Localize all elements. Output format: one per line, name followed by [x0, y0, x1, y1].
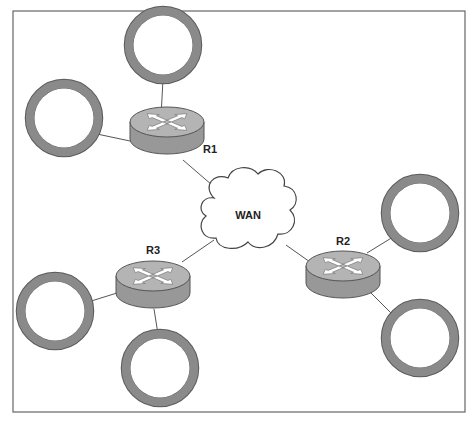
router-label: R2 [336, 235, 350, 247]
router-label: R1 [203, 143, 217, 155]
host-ring-r3-bottom [126, 334, 194, 402]
host-ring-r3-left [21, 277, 89, 345]
ring-center [391, 309, 450, 368]
router-top [130, 107, 204, 137]
ring-center [35, 89, 94, 148]
router-top [306, 251, 380, 281]
router-label: R3 [146, 244, 160, 256]
ring-center [131, 339, 190, 398]
router-top [116, 261, 190, 291]
ring-center [134, 16, 193, 75]
host-ring-r1-left [30, 84, 98, 152]
network-diagram: R1R2R3 WAN [0, 0, 476, 422]
host-ring-r2-lower [386, 304, 454, 372]
host-ring-r2-upper [386, 179, 454, 247]
ring-center [391, 184, 450, 243]
ring-center [26, 282, 85, 341]
wan-label: WAN [235, 209, 261, 221]
host-ring-r1-top [129, 11, 197, 79]
